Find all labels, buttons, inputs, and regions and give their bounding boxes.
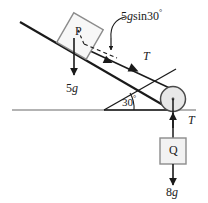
angle-degree: °: [133, 94, 136, 103]
weight-p-unit: g: [72, 81, 78, 95]
weight-p-label: 5g: [66, 82, 78, 94]
component-angle: 30: [147, 9, 159, 23]
component-label: 5gsin30°: [121, 9, 162, 22]
block-q-label: Q: [169, 144, 178, 156]
angle-label: 30°: [122, 95, 136, 108]
weight-q-unit: g: [172, 185, 178, 199]
component-fn: sin: [133, 9, 147, 23]
tension-incline-label: T: [143, 50, 150, 62]
component-degree: °: [159, 8, 162, 17]
block-p-label: P: [75, 25, 82, 37]
diagram-canvas: [0, 0, 208, 203]
tension-vertical-label: T: [188, 114, 195, 126]
angle-value: 30: [122, 96, 133, 108]
physics-diagram: P 5gsin30° T 5g 30° T Q 8g: [0, 0, 208, 203]
weight-q-label: 8g: [166, 186, 178, 198]
